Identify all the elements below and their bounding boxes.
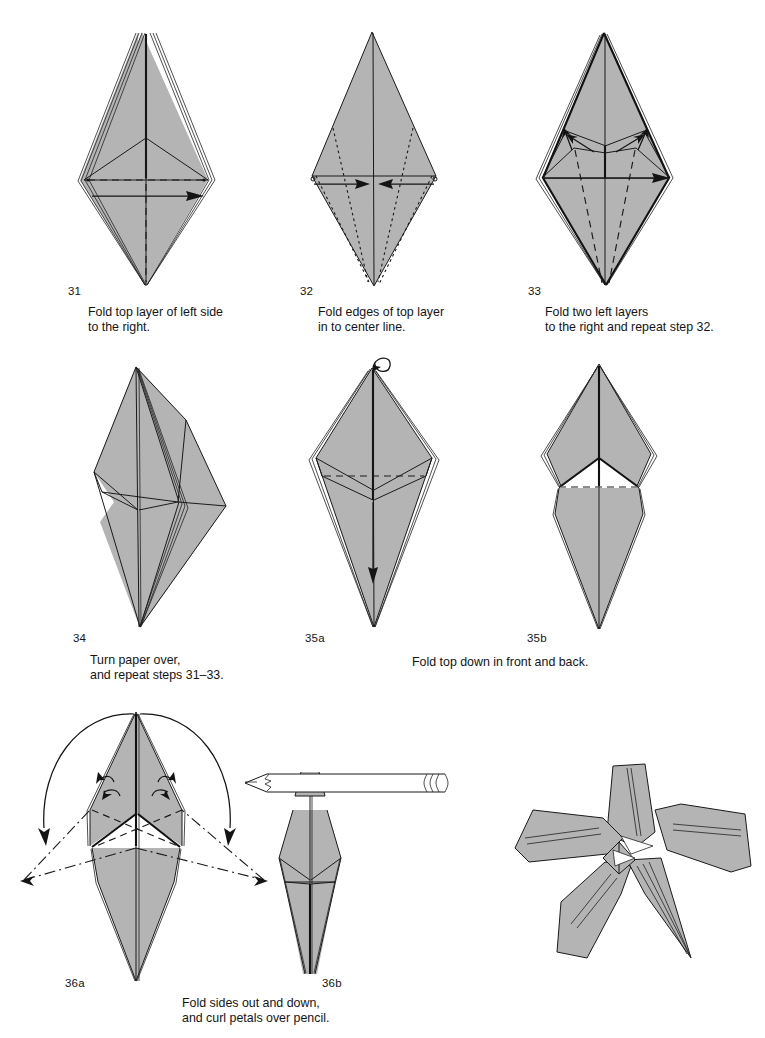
diagram-step-36b — [245, 762, 475, 987]
step-caption-31: Fold top layer of left side to the right… — [88, 305, 223, 334]
diagram-step-34 — [78, 362, 238, 632]
diagram-step-33 — [528, 28, 688, 290]
diagram-step-35b — [525, 358, 685, 633]
diagram-step-35a — [300, 352, 460, 632]
step-number-35a: 35a — [305, 632, 325, 644]
finished-lily-illustration — [495, 762, 765, 992]
caption-fold-top-down: Fold top down in front and back. — [412, 655, 588, 670]
step-caption-33: Fold two left layers to the right and re… — [545, 305, 714, 334]
step-number-33: 33 — [528, 285, 541, 297]
step-number-36b: 36b — [322, 977, 342, 989]
caption-fold-sides-out: Fold sides out and down, and curl petals… — [182, 996, 329, 1025]
step-number-32: 32 — [300, 285, 313, 297]
step-number-36a: 36a — [65, 977, 85, 989]
diagram-step-31 — [68, 28, 228, 290]
loop-arrow-35a — [372, 358, 390, 372]
pencil-illustration — [245, 774, 448, 792]
step-number-35b: 35b — [527, 632, 547, 644]
diagram-step-32 — [300, 28, 450, 290]
step-number-34: 34 — [73, 632, 86, 644]
step-caption-34: Turn paper over, and repeat steps 31–33. — [90, 653, 224, 682]
instruction-page: 31 Fold top layer of left side to the ri… — [0, 0, 765, 1038]
step-number-31: 31 — [68, 285, 81, 297]
step-caption-32: Fold edges of top layer in to center lin… — [318, 305, 444, 334]
